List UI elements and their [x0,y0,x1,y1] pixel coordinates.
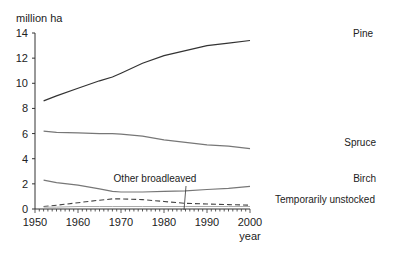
y-tick-label: 0 [22,203,28,215]
x-tick-label: 1950 [23,216,47,228]
x-tick-label: 1970 [109,216,133,228]
x-tick-label: 1990 [195,216,219,228]
y-tick-label: 4 [22,153,28,165]
y-tick-label: 8 [22,102,28,114]
label-pine: Pine [353,28,373,39]
series-pine [44,41,250,101]
series-other-broadleaved [44,199,250,207]
label-birch: Birch [353,173,376,184]
y-axis-label: million ha [16,12,63,24]
y-tick-label: 10 [16,77,28,89]
y-tick-label: 14 [16,27,28,39]
x-tick-label: 1980 [152,216,176,228]
x-tick-label: 2000 [238,216,262,228]
line-chart: 02468101214195019601970198019902000 mill… [0,0,407,254]
y-tick-label: 6 [22,128,28,140]
y-tick-label: 12 [16,52,28,64]
y-tick-label: 2 [22,178,28,190]
series-spruce [44,131,250,149]
x-axis-label: year [239,230,261,242]
label-other-broadleaved: Other broadleaved [114,173,197,184]
x-tick-label: 1960 [66,216,90,228]
label-temporarily-unstocked: Temporarily unstocked [275,194,375,205]
axes: 02468101214195019601970198019902000 [16,27,262,228]
series-temporarily-unstocked [44,207,250,208]
label-spruce: Spruce [344,137,376,148]
